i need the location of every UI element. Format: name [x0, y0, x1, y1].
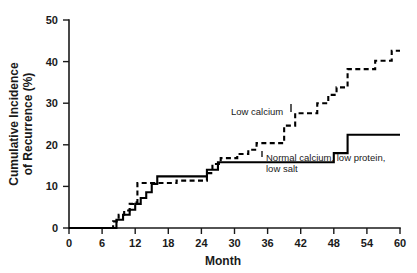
series-annotations: Low calcium Normal calcium, low protein,…	[231, 104, 385, 174]
x-tick-label-18: 18	[162, 237, 174, 249]
x-tick-label-30: 30	[228, 237, 240, 249]
y-tick-label-50: 50	[46, 14, 58, 26]
x-tick-label-36: 36	[261, 237, 273, 249]
curve-low-calcium	[69, 51, 400, 228]
x-tick-label-60: 60	[394, 237, 406, 249]
annotation-normal-calcium-line2: low salt	[266, 163, 298, 174]
y-tick-label-20: 20	[46, 139, 58, 151]
x-tick-label-42: 42	[295, 237, 307, 249]
x-tick-label-24: 24	[195, 237, 208, 249]
y-axis-title: Cumulative Incidence of Recurrence (%)	[7, 62, 35, 186]
y-tick-label-0: 0	[52, 222, 58, 234]
y-axis-tick-labels: 50 40 30 20 10 0	[46, 14, 58, 234]
x-tick-label-6: 6	[99, 237, 105, 249]
series-curves	[69, 51, 400, 228]
y-axis-title-line2: of Recurrence (%)	[21, 73, 35, 176]
y-tick-label-40: 40	[46, 56, 58, 68]
y-axis-title-line1: Cumulative Incidence	[7, 62, 21, 186]
x-tick-label-0: 0	[66, 237, 72, 249]
x-tick-label-48: 48	[328, 237, 340, 249]
x-axis-tick-labels: 0 6 12 18 24 30 36 42 48 54 60	[66, 237, 406, 249]
chart-figure: 50 40 30 20 10 0 Cumulative Incidence of…	[0, 0, 417, 273]
x-axis-group: 0 6 12 18 24 30 36 42 48 54 60 Month	[66, 228, 406, 268]
x-tick-label-12: 12	[129, 237, 141, 249]
x-axis-title: Month	[205, 254, 241, 268]
x-axis-ticks	[69, 228, 400, 234]
x-tick-label-54: 54	[361, 237, 374, 249]
annotation-low-calcium: Low calcium	[231, 106, 283, 117]
y-tick-label-10: 10	[46, 180, 58, 192]
y-axis-group: 50 40 30 20 10 0 Cumulative Incidence of…	[7, 14, 69, 234]
y-tick-label-30: 30	[46, 97, 58, 109]
cumulative-incidence-chart: 50 40 30 20 10 0 Cumulative Incidence of…	[0, 0, 417, 273]
y-axis-ticks	[63, 20, 69, 228]
annotation-normal-calcium-line1: Normal calcium, low protein,	[266, 152, 385, 163]
